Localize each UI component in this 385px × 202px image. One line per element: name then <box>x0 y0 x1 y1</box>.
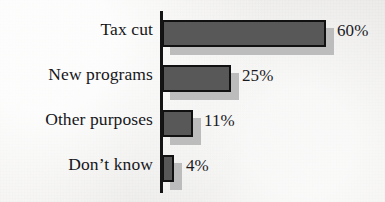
bar-value-label: 4% <box>186 153 209 179</box>
category-label: Tax cut <box>3 16 153 42</box>
bar-segment <box>162 20 326 47</box>
bar-segment <box>162 155 174 182</box>
bar-value-label: 11% <box>204 108 235 134</box>
bar-segment <box>162 110 193 137</box>
bar-row: New programs 25% <box>0 59 385 104</box>
bar-value-label: 60% <box>337 18 368 44</box>
bar-chart: Tax cut 60% New programs 25% Other purpo… <box>0 0 385 202</box>
bar-row: Other purposes 11% <box>0 104 385 149</box>
category-axis-line <box>160 11 163 193</box>
bar-row: Don’t know 4% <box>0 149 385 194</box>
plot-area: Tax cut 60% New programs 25% Other purpo… <box>0 0 385 202</box>
category-label: Other purposes <box>3 106 153 132</box>
bar-value-label: 25% <box>242 63 273 89</box>
bar-row: Tax cut 60% <box>0 14 385 59</box>
bar-segment <box>162 65 231 92</box>
category-label: New programs <box>3 61 153 87</box>
category-label: Don’t know <box>3 151 153 177</box>
